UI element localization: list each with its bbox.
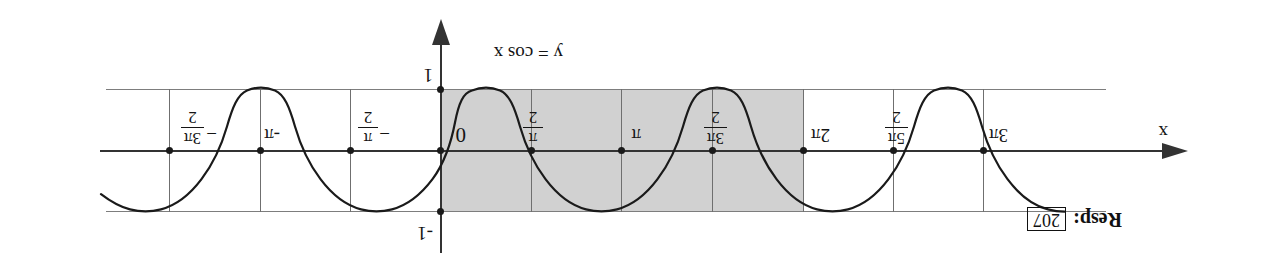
xtick-5pi-over-2-numerator: 5π [885, 129, 908, 147]
xtick-label-3pi-over-2: 3π 2 [704, 107, 727, 147]
xtick-label-2pi: 2π [811, 126, 830, 145]
x-axis-label: x [1159, 121, 1169, 143]
xtick-minus-pi-over-2-numerator: π [361, 129, 376, 147]
ytick-label-minus-1: -1 [417, 224, 433, 243]
xtick-5pi-over-2-denominator: 2 [889, 107, 904, 125]
xtick-label-minus-pi: -π [264, 126, 280, 145]
xtick-label-minus-pi-over-2: π 2 [358, 107, 378, 147]
xtick-label-minus-3pi-over-2: 3π 2 [181, 107, 204, 147]
response-stamp-value: 207 [1027, 207, 1066, 231]
xtick-minus-3pi-over-2-numerator: 3π [181, 129, 204, 147]
xtick-minus-3pi-over-2-denominator: 2 [185, 107, 200, 125]
xtick-minus-pi-over-2-denominator: 2 [361, 107, 376, 125]
origin-label: 0 [456, 124, 467, 145]
fraction-bar [181, 127, 204, 128]
response-stamp-label: Resp: [1073, 208, 1122, 231]
fraction-bar [523, 127, 543, 128]
xtick-3pi-over-2-numerator: 3π [704, 129, 727, 147]
curve-equation-label: y = cos x [494, 42, 563, 64]
fraction-bar [358, 127, 378, 128]
xtick-3pi-over-2-denominator: 2 [708, 107, 723, 125]
xtick-minus-sign-pi-over-2: − [379, 122, 390, 144]
fraction-bar [704, 127, 727, 128]
xtick-label-pi-over-2: π 2 [523, 107, 543, 147]
xtick-minus-sign-3pi-over-2: − [206, 122, 217, 144]
xtick-label-pi: π [631, 126, 641, 145]
xtick-pi-over-2-numerator: π [526, 129, 541, 147]
xtick-label-3pi: 3π [989, 126, 1008, 145]
fraction-bar [885, 127, 908, 128]
response-stamp: Resp: 207 [1027, 207, 1122, 231]
xtick-label-5pi-over-2: 5π 2 [885, 107, 908, 147]
xtick-pi-over-2-denominator: 2 [526, 107, 541, 125]
ytick-label-plus-1: 1 [424, 66, 434, 85]
